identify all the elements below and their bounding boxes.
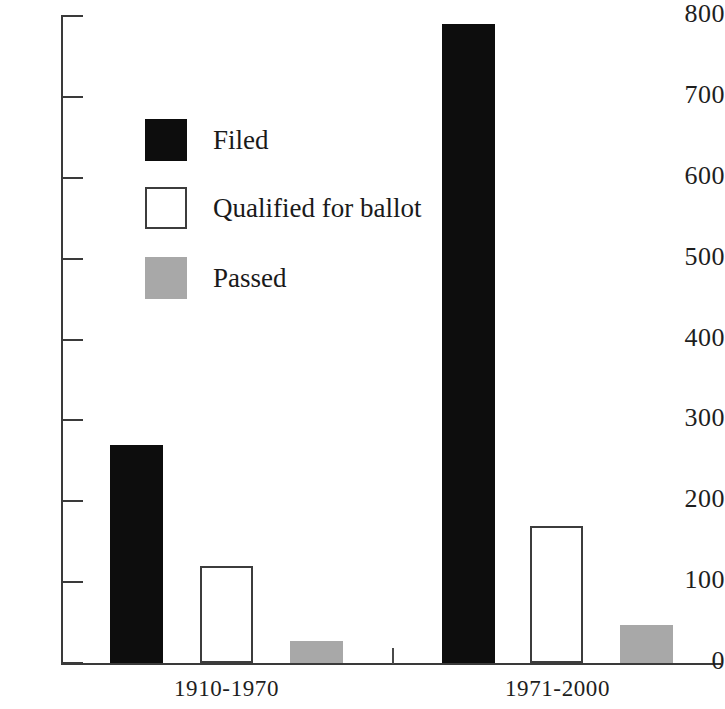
legend-label-passed: Passed [213,265,287,292]
y-axis-tick [63,500,83,502]
y-axis-tick [63,258,83,260]
bar-qualified-1971-2000 [530,526,583,663]
bar-filed-1910-1970 [110,445,163,663]
y-axis-tick [63,177,83,179]
y-axis-tick [63,419,83,421]
y-axis-tick-label: 800 [671,1,725,27]
y-axis-tick [63,662,83,664]
y-axis-tick-label: 500 [671,244,725,270]
y-axis-tick-label: 600 [671,163,725,189]
y-axis-tick [63,96,83,98]
legend-swatch-filed-icon [145,119,187,161]
y-axis-tick-label: 200 [671,486,725,512]
bar-qualified-1910-1970 [200,566,253,663]
y-axis-tick-label: 300 [671,405,725,431]
legend-item-filed: Filed [145,119,269,161]
legend-swatch-passed-icon [145,257,187,299]
y-axis-tick-label: 100 [671,567,725,593]
bar-filed-1971-2000 [442,24,495,663]
group-separator-tick [392,648,394,664]
bar-passed-1910-1970 [290,641,343,663]
y-axis-tick [63,581,83,583]
legend-label-qualified: Qualified for ballot [213,195,421,222]
bar-passed-1971-2000 [620,625,673,663]
y-axis-tick-label: 400 [671,325,725,351]
y-axis-tick-label: 700 [671,82,725,108]
y-axis-tick [63,15,83,17]
y-axis-tick [63,339,83,341]
x-axis-line [61,663,721,665]
bar-chart: 8007006005004003002001000 1910-19701971-… [0,0,725,709]
legend-swatch-qualified-icon [145,187,187,229]
x-axis-label-1971-2000: 1971-2000 [448,676,668,702]
x-axis-label-1910-1970: 1910-1970 [117,676,337,702]
legend-label-filed: Filed [213,127,269,154]
legend-item-qualified: Qualified for ballot [145,187,421,229]
y-axis-tick-label: 0 [671,648,725,674]
legend-item-passed: Passed [145,257,287,299]
